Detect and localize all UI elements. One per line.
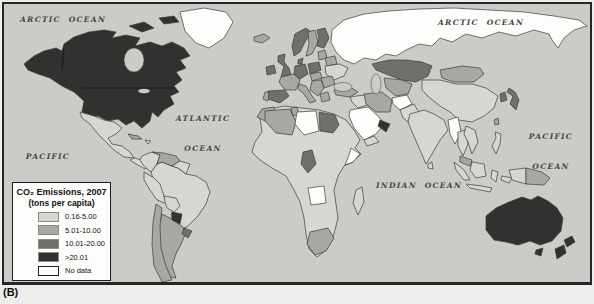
- region-madagascar: [353, 187, 364, 215]
- region-greenland: [180, 8, 233, 48]
- region-finland: [317, 28, 329, 48]
- ocean-label-arctic-right: ARCTIC OCEAN: [438, 18, 524, 28]
- legend-label-nodata: No data: [65, 266, 91, 275]
- legend-label-1: 0.16-5.00: [65, 212, 97, 221]
- region-canadian-arctic-islands: [159, 16, 179, 24]
- ocean-label-atlantic-line1: ATLANTIC: [167, 114, 239, 124]
- ocean-label-pacific-right-line1: PACIFIC: [520, 132, 582, 142]
- ocean-label-indian: INDIAN OCEAN: [376, 181, 462, 191]
- ocean-label-arctic-left: ARCTIC OCEAN: [20, 15, 106, 25]
- region-canadian-arctic-islands: [129, 22, 154, 32]
- region-gulf-states: [378, 120, 390, 132]
- legend-swatch-3: [38, 239, 59, 249]
- world-map: ARCTIC OCEAN ARCTIC OCEAN ATLANTIC OCEAN…: [2, 2, 592, 285]
- region-portugal: [263, 92, 269, 101]
- legend-subtitle: (tons per capita): [16, 198, 107, 208]
- legend-title: CO₂ Emissions, 2007: [16, 187, 107, 198]
- ocean-label-atlantic: ATLANTIC OCEAN: [167, 94, 239, 174]
- region-ireland: [266, 65, 276, 75]
- black-sea: [334, 83, 352, 92]
- legend-swatch-nodata: [38, 266, 59, 276]
- region-russia: [331, 8, 587, 64]
- legend-label-2: 5.01-10.00: [65, 226, 101, 235]
- region-india: [408, 110, 448, 164]
- legend-swatch-4: [38, 252, 59, 262]
- region-new-zealand-south: [555, 245, 566, 259]
- legend-swatch-2: [38, 225, 59, 235]
- region-angola: [308, 186, 326, 205]
- legend-row: 10.01-20.00: [38, 239, 107, 248]
- legend-label-3: 10.01-20.00: [65, 239, 105, 248]
- region-borneo: [470, 162, 486, 178]
- region-japan: [507, 88, 519, 110]
- figure-caption: (B): [3, 286, 18, 298]
- region-sri-lanka: [428, 162, 433, 169]
- region-south-korea: [500, 92, 507, 102]
- region-france: [279, 74, 300, 90]
- legend-row: No data: [38, 266, 107, 275]
- region-spain: [268, 90, 289, 103]
- region-kazakhstan: [372, 60, 432, 82]
- legend-row: 0.16-5.00: [38, 212, 107, 221]
- region-czech-hungary: [310, 72, 322, 81]
- region-australia: [486, 196, 563, 245]
- legend-label-4: >20.01: [65, 253, 88, 262]
- region-north-america: [24, 30, 190, 128]
- region-iceland: [254, 34, 270, 43]
- region-greece: [320, 92, 330, 102]
- map-legend: CO₂ Emissions, 2007 (tons per capita) 0.…: [12, 182, 111, 281]
- region-mongolia: [440, 66, 484, 82]
- figure-page: ARCTIC OCEAN ARCTIC OCEAN ATLANTIC OCEAN…: [0, 0, 594, 304]
- ocean-label-pacific-left-line1: PACIFIC: [18, 152, 78, 162]
- region-maluku: [501, 176, 512, 183]
- legend-row: >20.01: [38, 253, 107, 262]
- region-new-zealand-north: [564, 236, 575, 247]
- region-philippines: [492, 132, 501, 154]
- region-taiwan: [494, 118, 499, 125]
- region-uk: [278, 54, 291, 77]
- legend-swatch-1: [38, 212, 59, 222]
- region-denmark: [298, 58, 303, 64]
- ocean-label-pacific-right: PACIFIC OCEAN: [520, 112, 582, 192]
- region-tasmania: [535, 248, 543, 256]
- hudson-bay: [124, 48, 144, 72]
- region-sulawesi: [491, 170, 498, 182]
- region-hispaniola: [145, 140, 151, 144]
- region-malaysia: [460, 156, 472, 166]
- legend-row: 5.01-10.00: [38, 226, 107, 235]
- ocean-label-pacific-right-line2: OCEAN: [520, 162, 582, 172]
- ocean-label-atlantic-line2: OCEAN: [167, 144, 239, 154]
- great-lakes: [138, 89, 150, 94]
- region-java: [466, 184, 492, 192]
- caspian-sea: [371, 74, 381, 94]
- region-cuba: [128, 134, 142, 139]
